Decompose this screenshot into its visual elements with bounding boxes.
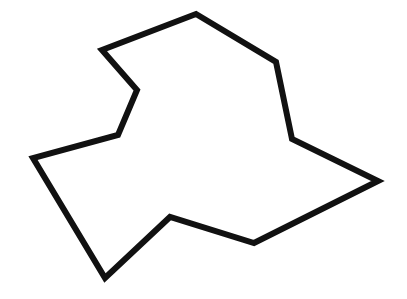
polygon-diagram (0, 0, 407, 299)
figure-canvas (0, 0, 407, 299)
